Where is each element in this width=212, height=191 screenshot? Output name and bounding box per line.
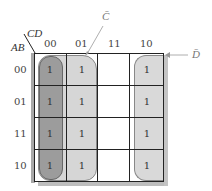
map-cell: 1 (66, 128, 98, 139)
map-cell: 1 (131, 128, 163, 139)
d-bar-arrow (164, 50, 190, 60)
map-cell: 1 (131, 64, 163, 75)
map-cell: 1 (66, 64, 98, 75)
grid-line (34, 117, 164, 118)
map-cell: 1 (66, 160, 98, 171)
map-cell: 1 (34, 160, 66, 171)
row-header: 10 (14, 160, 27, 171)
grid-line (34, 149, 164, 150)
row-header: 11 (14, 128, 27, 139)
col-variable-label: CD (27, 27, 42, 39)
map-cell: 1 (66, 96, 98, 107)
map-cell: 1 (131, 160, 163, 171)
map-cell: 1 (131, 96, 163, 107)
c-bar-label: C̄ (102, 10, 109, 22)
map-cell: 1 (34, 128, 66, 139)
row-header: 01 (14, 96, 27, 107)
col-header: 00 (44, 38, 57, 49)
d-bar-label: D̄ (192, 48, 200, 60)
col-header: 11 (108, 38, 121, 49)
map-cell: 1 (34, 64, 66, 75)
row-header: 00 (14, 64, 27, 75)
map-cell: 1 (34, 96, 66, 107)
grid-line (34, 85, 164, 86)
col-header: 10 (140, 38, 153, 49)
row-variable-label: AB (11, 41, 24, 53)
grid-line (34, 181, 164, 182)
map-shadow-right (164, 55, 168, 186)
c-bar-leader-line (84, 24, 108, 58)
